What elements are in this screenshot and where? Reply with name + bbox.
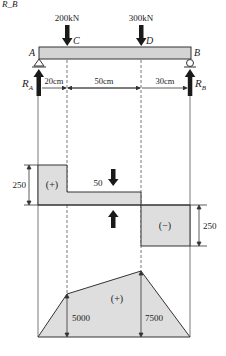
reaction-a-label: RA <box>21 77 34 92</box>
load-d-arrow-icon <box>136 25 147 46</box>
shear-up-arrow-icon <box>108 210 119 228</box>
point-c-label: C <box>73 35 80 46</box>
point-a-label: A <box>28 47 36 58</box>
shear-right-sign: (−) <box>159 220 171 232</box>
shear-left-value: 250 <box>13 180 27 190</box>
point-b-label: B <box>194 47 200 58</box>
load-c-label: 200kN <box>55 13 80 23</box>
beam <box>39 47 191 59</box>
shear-left-sign: (+) <box>46 179 58 191</box>
point-d-label: D <box>145 35 154 46</box>
moment-value-d: 7500 <box>145 313 164 323</box>
load-c-arrow-icon <box>62 25 73 46</box>
reaction-b-label: RB <box>194 77 207 92</box>
pin-support-icon <box>32 59 46 67</box>
dim-cd: 50cm <box>95 76 114 86</box>
beam-diagram: R_B 200kN 300kN C D A B RA RB 20cm <box>0 0 226 356</box>
top-caption: R_B <box>1 0 18 9</box>
reaction-a-arrow-icon <box>34 69 45 96</box>
load-d-label: 300kN <box>129 13 154 23</box>
moment-value-c: 5000 <box>72 313 91 323</box>
shear-mid-value: 50 <box>94 178 104 188</box>
shear-down-arrow-icon <box>108 169 119 186</box>
moment-sign: (+) <box>111 293 123 305</box>
moment-diagram <box>38 271 190 337</box>
reaction-b-arrow-icon <box>185 69 196 96</box>
dim-db: 30cm <box>156 76 175 86</box>
roller-support-icon <box>184 60 196 68</box>
dim-ac: 20cm <box>45 76 64 86</box>
shear-right-value: 250 <box>203 221 217 231</box>
